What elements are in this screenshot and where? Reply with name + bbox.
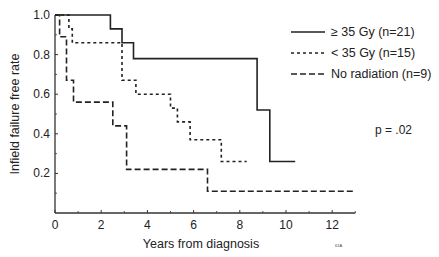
y-tick-label: 0.2: [33, 166, 50, 180]
y-tick-label: 0.4: [33, 127, 50, 141]
p-value-annotation: p = .02: [375, 123, 412, 137]
legend-item-lt35: < 35 Gy (n=15): [291, 46, 415, 60]
x-tick-label: 4: [144, 218, 151, 232]
legend-label: < 35 Gy (n=15): [331, 46, 415, 60]
legend-item-ge35: ≥ 35 Gy (n=21): [291, 25, 415, 39]
plot-series: [55, 15, 355, 191]
legend-item-no-radiation: No radiation (n=9): [291, 67, 431, 81]
x-tick-label: 0: [52, 218, 59, 232]
y-tick-label: 1.0: [33, 8, 50, 22]
x-tick-label: 10: [279, 218, 293, 232]
km-chart: 0246810120.20.40.60.81.0 Years from diag…: [0, 0, 439, 257]
x-tick-label: 6: [190, 218, 197, 232]
y-tick-label: 0.8: [33, 48, 50, 62]
x-axis-label: Years from diagnosis: [143, 237, 259, 251]
y-tick-label: 0.6: [33, 87, 50, 101]
x-tick-label: 2: [98, 218, 105, 232]
legend-label: No radiation (n=9): [331, 67, 431, 81]
x-tick-label: 8: [236, 218, 243, 232]
series-dotted-line: [55, 15, 247, 162]
series-dashed-line: [55, 15, 355, 191]
figure-code: 61A: [335, 243, 342, 248]
legend: ≥ 35 Gy (n=21) < 35 Gy (n=15) No radiati…: [291, 25, 431, 81]
x-tick-label: 12: [326, 218, 340, 232]
y-axis-label: Infield failure free rate: [8, 54, 22, 175]
legend-label: ≥ 35 Gy (n=21): [331, 25, 415, 39]
series-solid-line: [55, 15, 295, 162]
plot-axes: 0246810120.20.40.60.81.0: [33, 8, 355, 232]
